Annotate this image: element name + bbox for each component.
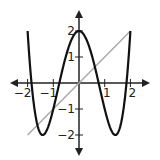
x-tick-label: 2	[129, 86, 137, 100]
x-tick-label: −1	[39, 86, 57, 100]
x-tick-label: 1	[103, 86, 111, 100]
y-tick-label: 1	[67, 50, 75, 64]
y-tick-label: −2	[57, 128, 75, 142]
y-tick-label: −1	[57, 102, 75, 116]
function-plot: −2−11221−1−2	[0, 0, 160, 160]
x-tick-label: −2	[14, 86, 32, 100]
